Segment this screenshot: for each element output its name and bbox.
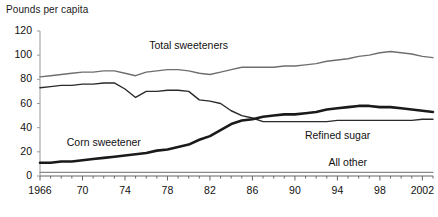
series-label: Refined sugar: [305, 129, 370, 141]
series-line: [40, 52, 433, 77]
series-label: All other: [329, 156, 368, 168]
series-label: Total sweeteners: [149, 39, 228, 51]
series-line: [40, 106, 433, 163]
chart-root: Pounds per capita 020406080100120 196670…: [0, 0, 438, 217]
series-label: Corn sweetener: [67, 136, 141, 148]
chart-plot-area: [0, 0, 438, 217]
series-line: [40, 83, 433, 122]
